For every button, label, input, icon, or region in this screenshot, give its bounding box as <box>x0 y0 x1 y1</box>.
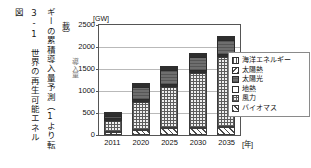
legend-label: 太陽熱 <box>242 67 263 74</box>
legend-label: 海洋エネルギー <box>242 57 291 64</box>
caption-line-2: ギーの累積導入量予測（1より転 <box>45 8 54 150</box>
x-tick-label-2025: 2025 <box>156 138 182 147</box>
legend-swatch-icon <box>232 95 239 102</box>
y-tick-label: 1000 <box>78 87 95 95</box>
bar-segment-wind <box>160 87 178 128</box>
y-tick-label: 2000 <box>78 43 95 51</box>
bar-segment-biomass <box>217 127 235 135</box>
caption-line-4: 図 <box>13 8 22 17</box>
legend-item[interactable]: 太陽光 <box>232 75 307 85</box>
legend-item[interactable]: 海洋エネルギー <box>232 56 307 66</box>
bar-segment-pv <box>160 70 178 85</box>
bar-segment-biomass <box>160 128 178 135</box>
bar-segment-biomass <box>189 128 207 135</box>
legend-item[interactable]: 太陽熱 <box>232 66 307 76</box>
y-tick-label: 2500 <box>78 21 95 29</box>
bar-segment-wind <box>132 102 150 129</box>
legend-label: 太陽光 <box>242 76 263 83</box>
legend-swatch-icon <box>232 76 239 83</box>
legend-label: バイオマス <box>242 105 277 112</box>
legend-swatch-icon <box>232 57 239 64</box>
bar-2011 <box>104 112 122 135</box>
y-tick-label: 500 <box>82 109 95 117</box>
y-axis-unit-label: [GW] <box>93 15 109 22</box>
legend-swatch-icon <box>232 105 239 112</box>
figure-caption: 載） ギーの累積導入量予測（1より転 3-1 世界の再生可能エネル 図 <box>0 0 72 168</box>
legend-item[interactable]: 風力 <box>232 94 307 104</box>
legend-item[interactable]: 地熱 <box>232 85 307 95</box>
renewable-energy-chart: [GW] 導入量 05001000150020002500 2011202020… <box>72 0 311 168</box>
plot-area: 05001000150020002500 <box>98 24 241 136</box>
bar-segment-pv <box>189 57 207 71</box>
bar-segment-biomass <box>132 130 150 135</box>
bar-segment-pv <box>132 87 150 100</box>
bar-2020 <box>132 83 150 135</box>
legend-item[interactable]: バイオマス <box>232 104 307 114</box>
x-axis-unit-label: [年] <box>242 138 253 149</box>
legend-label: 地熱 <box>242 86 256 93</box>
y-tick-mark <box>96 135 99 136</box>
bar-segment-wind <box>104 121 122 132</box>
y-tick-label: 1500 <box>78 65 95 73</box>
x-tick-label-2020: 2020 <box>128 138 154 147</box>
bar-segment-wind <box>189 73 207 128</box>
chart-legend: 海洋エネルギー太陽熱太陽光地熱風力バイオマス <box>228 52 310 117</box>
x-tick-label-2030: 2030 <box>185 138 211 147</box>
bar-segment-biomass <box>104 132 122 135</box>
bar-2025 <box>160 66 178 135</box>
caption-line-1: 載） <box>60 22 68 39</box>
x-tick-label-2011: 2011 <box>99 138 125 147</box>
legend-label: 風力 <box>242 95 256 102</box>
x-axis-labels: 20112020202520302035 <box>98 138 241 147</box>
y-tick-label: 0 <box>91 131 95 139</box>
caption-line-3: 3-1 世界の再生可能エネル <box>29 8 38 143</box>
legend-swatch-icon <box>232 67 239 74</box>
x-tick-label-2035: 2035 <box>214 138 240 147</box>
bar-group <box>99 25 240 135</box>
bar-2030 <box>189 53 207 135</box>
legend-swatch-icon <box>232 86 239 93</box>
